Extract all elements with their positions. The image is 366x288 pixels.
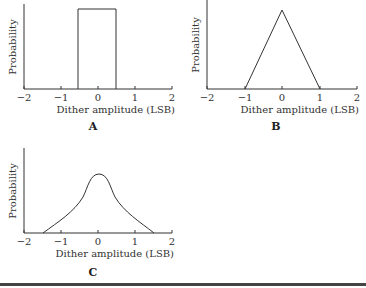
panel-label: B	[271, 120, 280, 133]
y-axis-title: Probability	[7, 163, 18, 219]
tick-label: −1	[54, 92, 69, 103]
tick-label: 1	[317, 92, 323, 103]
panel-b: −2 −1 0 1 2 Dither amplitude (LSB) Proba…	[190, 0, 360, 133]
figure-canvas: −2 −1 0 1 2 Dither amplitude (LSB) Proba…	[0, 0, 366, 288]
x-axis-title: Dither amplitude (LSB)	[57, 104, 175, 115]
rectangular-pdf-curve	[78, 9, 116, 89]
x-axis-title: Dither amplitude (LSB)	[56, 248, 174, 259]
panel-label: C	[89, 266, 98, 279]
tick-label: −1	[54, 236, 69, 247]
gaussian-pdf-curve	[43, 174, 154, 233]
panel-c: −2 −1 0 1 2 Dither amplitude (LSB) Proba…	[7, 148, 175, 279]
panel-label: A	[88, 120, 98, 133]
tick-label: −2	[17, 236, 32, 247]
tick-label: 0	[95, 92, 101, 103]
tick-label: 2	[354, 92, 360, 103]
tick-label: 0	[279, 92, 285, 103]
tick-label: −2	[200, 92, 215, 103]
y-axis-title: Probability	[7, 19, 18, 75]
tick-label: −1	[238, 92, 253, 103]
tick-label: 0	[95, 236, 101, 247]
tick-label: 2	[169, 92, 175, 103]
tick-label: 2	[169, 236, 175, 247]
tick-label: −2	[17, 92, 32, 103]
triangular-pdf-curve	[245, 10, 320, 89]
panel-a: −2 −1 0 1 2 Dither amplitude (LSB) Proba…	[7, 4, 175, 133]
tick-label: 1	[132, 236, 138, 247]
tick-label: 1	[132, 92, 138, 103]
bottom-divider-rule	[0, 283, 366, 286]
y-axis-title: Probability	[190, 17, 201, 73]
x-axis-title: Dither amplitude (LSB)	[241, 104, 359, 115]
